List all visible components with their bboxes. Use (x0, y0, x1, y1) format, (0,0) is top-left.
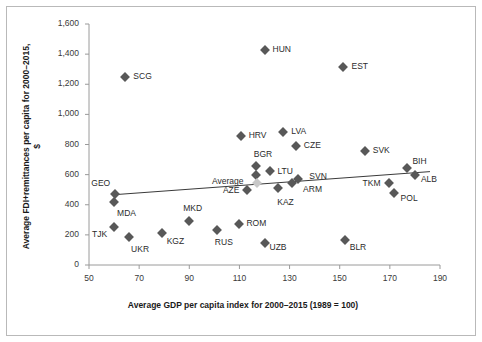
data-point-label: UKR (131, 244, 149, 254)
data-point-label: LTU (278, 166, 293, 176)
data-point-label: BIH (412, 156, 426, 166)
scatter-chart: Average FDI+remittances per capita for 2… (0, 0, 482, 342)
data-point-label: ALB (421, 174, 437, 184)
data-point-label: RUS (215, 237, 233, 247)
x-tick-label: 110 (224, 273, 254, 283)
data-point-label: ROM (246, 218, 266, 228)
data-point-label: BLR (350, 242, 367, 252)
data-point-label: SVN (309, 171, 326, 181)
y-tick-label: 200 (45, 229, 79, 239)
y-tick-label: 1,200 (45, 78, 79, 88)
data-point-label: KGZ (167, 236, 184, 246)
x-tick-label: 130 (275, 273, 305, 283)
y-axis-title: Average FDI+remittances per capita for 2… (21, 41, 44, 251)
x-tick-label: 70 (124, 273, 154, 283)
y-tick-label: 800 (45, 139, 79, 149)
x-tick-label: 150 (325, 273, 355, 283)
y-tick-label: 1,600 (45, 18, 79, 28)
data-point-label: SVK (373, 145, 390, 155)
data-point-label: TKM (363, 178, 381, 188)
x-tick-label: 170 (375, 273, 405, 283)
x-axis-title: Average GDP per capita index for 2000–20… (118, 300, 368, 311)
data-point-label: MKD (183, 203, 202, 213)
data-point-label: MDA (117, 208, 136, 218)
data-point-label: POL (401, 193, 418, 203)
x-tick-label: 190 (425, 273, 455, 283)
data-point-label: ARM (303, 184, 322, 194)
data-point-label: GEO (91, 178, 110, 188)
y-tick-label: 400 (45, 199, 79, 209)
data-point-label: EST (351, 61, 368, 71)
x-tick-label: 50 (74, 273, 104, 283)
y-tick-label: 0 (45, 259, 79, 269)
data-point-label: LVA (291, 126, 306, 136)
data-point-label: CZE (304, 140, 321, 150)
x-tick-label: 90 (174, 273, 204, 283)
y-tick-label: 1,400 (45, 48, 79, 58)
data-point-label: TJK (92, 229, 107, 239)
data-point-label: AZE (223, 185, 240, 195)
data-point-label: HRV (249, 130, 267, 140)
y-tick-label: 600 (45, 169, 79, 179)
y-tick-label: 1,000 (45, 108, 79, 118)
data-point-label: SCG (133, 71, 151, 81)
trendline (113, 172, 430, 195)
data-point-label: HUN (273, 44, 291, 54)
data-point-label: UZB (270, 242, 287, 252)
data-point-label: BGR (254, 149, 272, 159)
data-point-label: KAZ (277, 197, 294, 207)
